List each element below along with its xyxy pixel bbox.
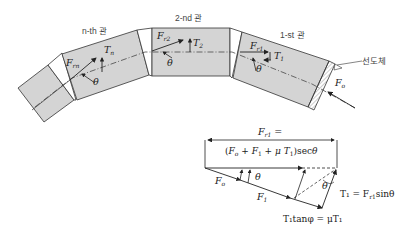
segment-label-nth: n-th 관 bbox=[82, 26, 107, 36]
pipe-jacking-force-diagram: n-th 관 2-nd 관 1-st 관 Frn Tn θ Fr2 T2 θ F… bbox=[0, 0, 403, 236]
t1-equation: T₁ = Fr1sinθ bbox=[340, 189, 395, 200]
vector-diagram: Fr1 = (Fo + F1 + μ T1)secθ θ θ Fo F1 T₁ … bbox=[205, 126, 395, 224]
segment-label-2nd: 2-nd 관 bbox=[175, 13, 202, 23]
leading-body-label: 선도체 bbox=[362, 56, 386, 66]
pipe-segments bbox=[18, 28, 342, 122]
theta-1st-label: θ bbox=[256, 63, 262, 74]
fr1-top-label: Fr1 = bbox=[257, 126, 282, 138]
f1-label: F1 bbox=[256, 191, 267, 203]
fo-label: Fo bbox=[214, 175, 226, 187]
applied-force-label: Fo bbox=[334, 77, 346, 89]
theta-nth-label: θ bbox=[93, 76, 99, 87]
fr1-formula: (Fo + F1 + μ T1)secθ bbox=[225, 146, 318, 157]
theta-left-label: θ bbox=[255, 171, 261, 182]
segment-label-1st: 1-st 관 bbox=[280, 30, 305, 40]
friction-equation: T₁tanφ = μT₁ bbox=[283, 214, 342, 224]
theta-2nd-label: θ bbox=[167, 57, 173, 68]
theta-right-label: θ bbox=[322, 180, 328, 191]
